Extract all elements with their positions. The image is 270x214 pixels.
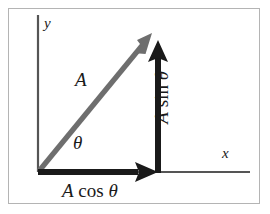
a-sin-spacer-2 [151, 80, 172, 85]
a-cos-magnitude: A [62, 180, 74, 201]
a-sin-function: sin [151, 85, 172, 107]
vector-a-arrowhead [133, 33, 152, 54]
vector-decomposition-figure: y x A θ A cos θ A sin θ [0, 0, 270, 214]
vector-a-label: A [75, 70, 87, 89]
a-sin-theta-label: A sin θ [152, 18, 171, 71]
a-cos-theta-label: A cos θ [62, 181, 118, 200]
a-sin-magnitude: A [151, 112, 172, 124]
a-sin-inner: A sin θ [152, 71, 171, 124]
a-sin-theta: θ [151, 71, 172, 80]
vector-a-shaft [39, 42, 145, 171]
a-cos-function: cos [78, 180, 103, 201]
vector-a-arrow [39, 33, 152, 171]
vector-acos-arrow [38, 162, 158, 182]
a-sin-spacer [151, 107, 172, 112]
y-axis-label: y [44, 16, 51, 31]
angle-theta-label: θ [73, 133, 82, 152]
x-axis-label: x [222, 146, 229, 161]
a-cos-theta: θ [108, 180, 117, 201]
diagram-canvas [0, 0, 270, 214]
